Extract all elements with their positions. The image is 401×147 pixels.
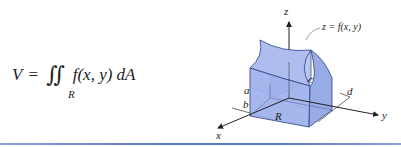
bound-c-label: c: [308, 73, 313, 85]
x-axis-label: x: [215, 129, 221, 141]
y-axis-label: y: [381, 109, 387, 121]
surface-label: z = f(x, y): [321, 21, 362, 33]
section-divider: [0, 143, 401, 145]
solid-side-face: [309, 50, 332, 127]
bound-d-label: d: [347, 85, 353, 97]
bound-a-label: a: [244, 84, 250, 96]
surface-leader-line: [306, 28, 320, 40]
region-label: R: [274, 110, 282, 122]
volume-diagram: z y x z = f(x, y) R a b c d: [0, 0, 401, 147]
bound-b-label: b: [243, 98, 249, 110]
z-axis-label: z: [283, 5, 289, 17]
